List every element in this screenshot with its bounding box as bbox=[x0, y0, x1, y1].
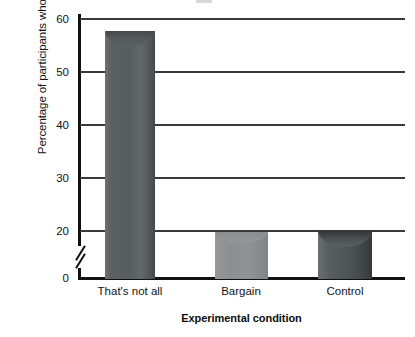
x-tick-label-bargain: Bargain bbox=[221, 285, 261, 297]
x-tick-label-control: Control bbox=[326, 285, 363, 297]
y-tick-label-40: 40 bbox=[56, 119, 69, 131]
plot-area: 60 50 40 30 20 0 That's not all Bargain … bbox=[78, 18, 405, 279]
y-tick-label-50: 50 bbox=[56, 66, 69, 78]
gridline-60 bbox=[80, 18, 405, 20]
y-tick-label-20: 20 bbox=[56, 225, 69, 237]
bar-thats-not-all bbox=[105, 32, 155, 279]
y-axis-line bbox=[78, 14, 81, 280]
bar-chart-figure: Percentage of participants who buy 60 50… bbox=[0, 0, 415, 337]
y-axis-title: Percentage of participants who buy bbox=[36, 0, 48, 186]
y-tick-label-60: 60 bbox=[56, 13, 69, 25]
bar-body bbox=[105, 32, 155, 279]
y-tick-label-0: 0 bbox=[63, 272, 69, 284]
x-axis-title: Experimental condition bbox=[78, 312, 405, 324]
x-tick-label-thats-not-all: That's not all bbox=[98, 285, 163, 297]
bar-bargain bbox=[215, 233, 268, 279]
bar-control bbox=[318, 231, 372, 279]
axis-break-icon bbox=[71, 246, 89, 268]
y-tick-label-30: 30 bbox=[56, 172, 69, 184]
clipped-caption-artifact bbox=[196, 0, 212, 3]
